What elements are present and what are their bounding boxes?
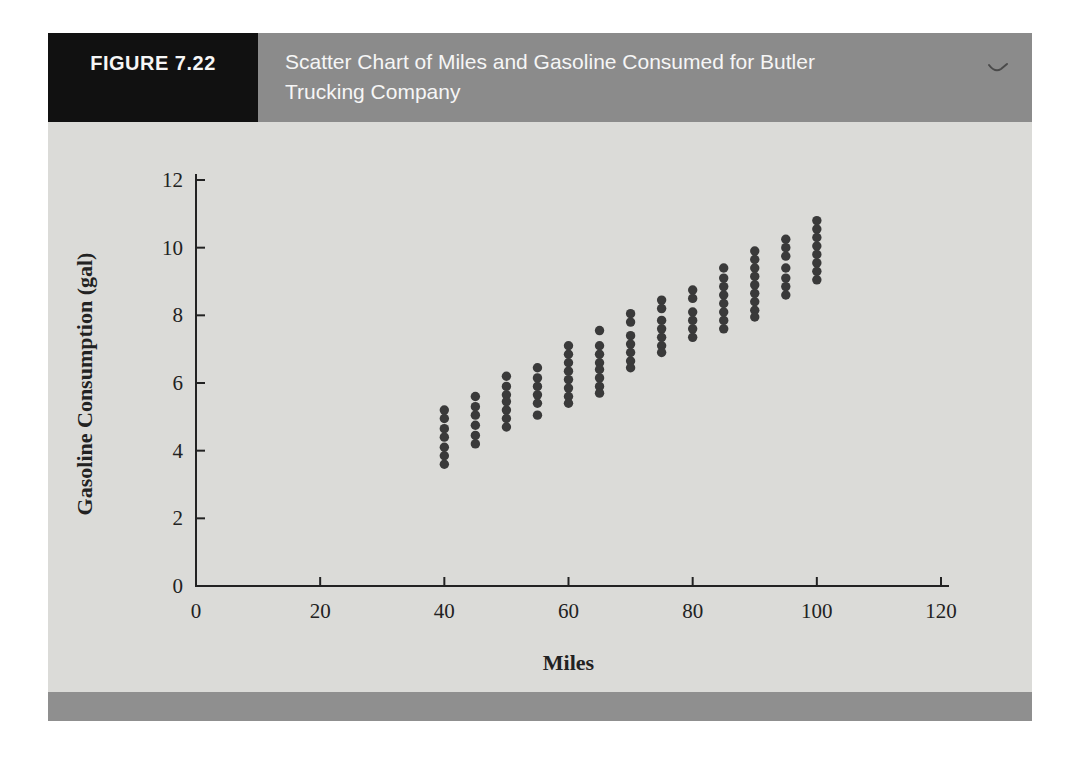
data-point — [564, 399, 573, 408]
data-point — [440, 432, 449, 441]
x-tick-label: 60 — [558, 599, 579, 623]
data-point — [440, 405, 449, 414]
data-point — [750, 297, 759, 306]
data-point — [626, 309, 635, 318]
data-point — [626, 363, 635, 372]
data-point — [533, 382, 542, 391]
data-point — [688, 316, 697, 325]
data-point — [595, 365, 604, 374]
data-point — [657, 304, 666, 313]
data-point — [812, 216, 821, 225]
data-point — [626, 317, 635, 326]
data-point — [502, 397, 511, 406]
data-point — [781, 235, 790, 244]
pen-mark-icon — [985, 55, 1015, 81]
data-point — [688, 333, 697, 342]
pen-mark-stroke — [989, 64, 1007, 70]
figure-label-box: FIGURE 7.22 — [48, 33, 258, 122]
x-tick-label: 40 — [434, 599, 455, 623]
data-point — [812, 267, 821, 276]
x-tick-label: 20 — [310, 599, 331, 623]
data-point — [719, 263, 728, 272]
data-point — [781, 243, 790, 252]
data-point — [626, 348, 635, 357]
data-point — [812, 250, 821, 259]
scatter-chart: 020406080100120024681012MilesGasoline Co… — [48, 122, 1032, 692]
data-point — [812, 233, 821, 242]
data-point — [657, 333, 666, 342]
data-point — [812, 241, 821, 250]
data-point — [781, 263, 790, 272]
data-point — [564, 350, 573, 359]
data-point — [750, 263, 759, 272]
data-point — [781, 290, 790, 299]
data-point — [595, 350, 604, 359]
data-point — [502, 422, 511, 431]
data-point — [719, 316, 728, 325]
data-point — [719, 324, 728, 333]
footer-bar — [48, 692, 1032, 721]
data-point — [750, 312, 759, 321]
y-tick-label: 4 — [173, 439, 184, 463]
x-axis-title: Miles — [543, 650, 595, 675]
data-point — [564, 358, 573, 367]
data-point — [564, 383, 573, 392]
data-point — [533, 373, 542, 382]
data-point — [626, 339, 635, 348]
data-point — [750, 289, 759, 298]
chart-area: 020406080100120024681012MilesGasoline Co… — [48, 122, 1032, 692]
data-point — [595, 373, 604, 382]
data-point — [719, 290, 728, 299]
figure-panel: FIGURE 7.22 Scatter Chart of Miles and G… — [48, 33, 1032, 721]
data-point — [719, 299, 728, 308]
data-point — [471, 439, 480, 448]
data-point — [440, 451, 449, 460]
data-point — [595, 341, 604, 350]
x-tick-label: 80 — [682, 599, 703, 623]
data-point — [440, 424, 449, 433]
data-point — [750, 280, 759, 289]
data-point — [502, 382, 511, 391]
data-point — [533, 363, 542, 372]
data-point — [440, 443, 449, 452]
data-point — [657, 316, 666, 325]
data-point — [502, 405, 511, 414]
data-point — [471, 431, 480, 440]
data-point — [564, 341, 573, 350]
data-point — [688, 285, 697, 294]
y-tick-label: 0 — [173, 574, 184, 598]
data-point — [719, 282, 728, 291]
x-tick-label: 0 — [191, 599, 202, 623]
x-tick-label: 100 — [801, 599, 833, 623]
data-point — [657, 295, 666, 304]
data-point — [564, 366, 573, 375]
y-tick-label: 10 — [162, 236, 183, 260]
data-point — [688, 294, 697, 303]
data-point — [688, 324, 697, 333]
data-point — [812, 258, 821, 267]
y-tick-label: 8 — [173, 303, 184, 327]
data-point — [471, 402, 480, 411]
figure-title: Scatter Chart of Miles and Gasoline Cons… — [285, 47, 1002, 107]
x-tick-label: 120 — [925, 599, 957, 623]
y-tick-label: 12 — [162, 168, 183, 192]
figure-label: FIGURE 7.22 — [90, 52, 216, 74]
data-point — [781, 282, 790, 291]
figure-title-line: Trucking Company — [285, 77, 1002, 107]
y-tick-label: 6 — [173, 371, 184, 395]
data-point — [440, 414, 449, 423]
data-point — [533, 399, 542, 408]
figure-title-line: Scatter Chart of Miles and Gasoline Cons… — [285, 47, 1002, 77]
data-point — [812, 275, 821, 284]
data-point — [812, 224, 821, 233]
data-point — [750, 246, 759, 255]
data-point — [471, 392, 480, 401]
data-point — [626, 331, 635, 340]
figure-header: FIGURE 7.22 Scatter Chart of Miles and G… — [48, 33, 1032, 122]
data-point — [688, 307, 697, 316]
data-point — [781, 251, 790, 260]
data-point — [750, 255, 759, 264]
data-point — [595, 388, 604, 397]
data-point — [440, 460, 449, 469]
data-point — [471, 421, 480, 430]
